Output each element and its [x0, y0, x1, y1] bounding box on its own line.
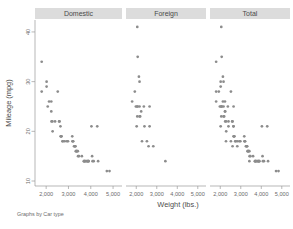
data-point [261, 125, 264, 128]
data-point [222, 105, 225, 108]
data-point [140, 110, 143, 113]
data-point [225, 120, 228, 123]
data-point [87, 160, 90, 163]
data-point [224, 110, 227, 113]
data-point [133, 90, 136, 93]
y-tick-label: 20 [25, 128, 31, 134]
x-tick-label: 5,000 [191, 191, 205, 197]
scatter-plot-figure: Domestic2,0003,0004,0005,000Foreign2,000… [0, 0, 293, 229]
data-point [45, 85, 48, 88]
graph-note: Graphs by Car type [17, 211, 64, 217]
data-point [232, 105, 235, 108]
data-point [267, 160, 270, 163]
data-point [231, 120, 234, 123]
data-point [227, 120, 230, 123]
data-point [131, 100, 134, 103]
data-point [222, 75, 225, 78]
data-point [138, 105, 141, 108]
data-point [227, 105, 230, 108]
data-point [215, 60, 218, 63]
x-tick-label: 4,000 [170, 191, 184, 197]
x-tick-label: 5,000 [275, 191, 289, 197]
data-point [143, 105, 146, 108]
data-point [135, 125, 138, 128]
data-point [232, 125, 235, 128]
data-point [72, 140, 75, 143]
data-point [78, 155, 81, 158]
data-point [224, 100, 227, 103]
data-point [40, 60, 43, 63]
y-tick-label: 30 [25, 79, 31, 85]
data-point [217, 90, 220, 93]
data-point [261, 155, 264, 158]
data-point [219, 125, 222, 128]
y-tick-label: 40 [25, 29, 31, 35]
x-tick-label: 4,000 [254, 191, 268, 197]
data-point [51, 120, 54, 123]
data-point [263, 160, 266, 163]
data-point [59, 125, 62, 128]
data-point [231, 145, 234, 148]
data-point [81, 155, 84, 158]
data-point [92, 160, 95, 163]
data-point [45, 80, 48, 83]
data-point [60, 135, 63, 138]
data-point [220, 55, 223, 58]
data-point [56, 90, 59, 93]
data-point [230, 140, 233, 143]
data-point [249, 155, 252, 158]
data-point [74, 145, 77, 148]
panel-title: Foreign [154, 10, 178, 18]
data-point [108, 170, 111, 173]
data-point [50, 110, 53, 113]
data-point [164, 160, 167, 163]
data-point [58, 120, 61, 123]
data-point [46, 105, 49, 108]
data-point [219, 80, 222, 83]
data-point [51, 130, 54, 133]
y-tick-label: 10 [25, 178, 31, 184]
data-point [277, 170, 280, 173]
data-point [143, 125, 146, 128]
data-point [96, 125, 99, 128]
data-point [230, 90, 233, 93]
data-point [215, 100, 218, 103]
data-point [90, 125, 93, 128]
data-point [243, 135, 246, 138]
panel-title: Domestic [64, 10, 94, 17]
data-point [219, 85, 222, 88]
panel-title: Total [243, 10, 258, 17]
data-point [239, 140, 242, 143]
data-point [220, 26, 223, 29]
data-point [223, 115, 226, 118]
data-point [105, 170, 108, 173]
x-tick-label: 3,000 [150, 191, 164, 197]
x-axis-title: Weight (lbs.) [157, 200, 198, 209]
data-point [266, 125, 269, 128]
x-tick-label: 5,000 [106, 191, 120, 197]
x-tick-label: 3,000 [234, 191, 248, 197]
data-point [54, 120, 57, 123]
data-point [275, 170, 278, 173]
x-tick-label: 2,000 [39, 191, 53, 197]
data-point [246, 145, 249, 148]
data-point [248, 160, 251, 163]
data-point [71, 135, 74, 138]
data-point [76, 150, 79, 153]
data-point [248, 150, 251, 153]
data-point [67, 140, 70, 143]
data-point [50, 100, 53, 103]
y-axis-title: Mileage (mpg) [4, 79, 13, 126]
data-point [138, 80, 141, 83]
data-point [136, 55, 139, 58]
data-point [244, 140, 247, 143]
data-point [136, 26, 139, 29]
data-point [252, 155, 255, 158]
data-point [222, 80, 225, 83]
data-point [148, 125, 151, 128]
x-tick-label: 2,000 [213, 191, 227, 197]
data-point [146, 140, 149, 143]
data-point [40, 90, 43, 93]
x-tick-label: 4,000 [84, 191, 98, 197]
data-point [91, 155, 94, 158]
